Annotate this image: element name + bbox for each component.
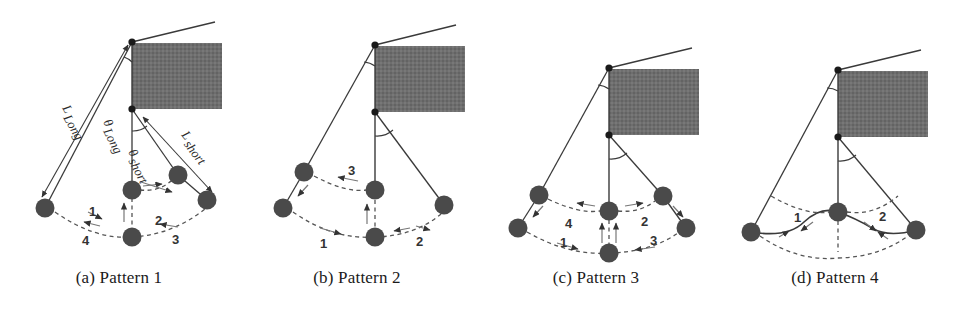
ball	[829, 203, 848, 222]
ball	[198, 191, 217, 210]
angle-arc-short	[609, 153, 627, 159]
step-number: 3	[650, 233, 657, 248]
trajectory-arc-outer-left	[293, 212, 375, 237]
support-block	[132, 43, 222, 109]
diagram-pattern-3: 4 2 1 3	[477, 0, 715, 268]
trajectory-arc-outer-right	[375, 214, 441, 237]
motion-arrow-4	[84, 222, 100, 226]
label-theta-short: θ short	[122, 146, 155, 186]
support-block	[838, 71, 928, 137]
step-number: 2	[879, 209, 886, 224]
panel-pattern-3: 4 2 1 3 (c) Pattern 3	[477, 0, 715, 320]
panel-caption: (c) Pattern 3	[477, 268, 715, 288]
support-block	[609, 69, 699, 135]
ball	[435, 196, 454, 215]
ball	[530, 186, 549, 205]
trajectory-outer-left	[527, 232, 609, 253]
panel-pattern-2: 3 1 2 (b) Pattern 2	[238, 0, 476, 320]
ceiling-line	[375, 25, 456, 45]
ball	[742, 223, 761, 242]
step-number: 1	[89, 204, 96, 219]
motion-arrow-2b	[394, 228, 410, 231]
panel-caption: (a) Pattern 1	[0, 268, 238, 288]
step-number: 2	[416, 234, 423, 249]
ceiling-line	[132, 22, 215, 42]
trajectory-outer-left	[760, 236, 838, 259]
pivot-upper	[834, 66, 841, 73]
step-number: 1	[794, 210, 801, 225]
step-number: 4	[82, 233, 90, 248]
figure-container: L Long θ Long θ short L short 1 2 3 4 (a…	[0, 0, 955, 320]
label-theta-long: θ Long	[97, 117, 130, 157]
motion-arrow-2	[864, 222, 876, 231]
label-l-long: L Long	[55, 101, 90, 143]
ball	[366, 228, 385, 247]
pivot-lower	[371, 108, 378, 115]
panel-caption: (b) Pattern 2	[238, 268, 476, 288]
rod-long-left	[539, 68, 609, 195]
angle-arc-long	[598, 85, 609, 89]
support-block	[375, 46, 465, 112]
diagram-pattern-4: 1 2	[716, 0, 955, 268]
ball	[36, 199, 55, 218]
ball	[274, 199, 293, 218]
pivot-upper	[605, 64, 612, 71]
ceiling-line	[609, 48, 692, 68]
motion-arrow-2	[625, 203, 643, 206]
angle-arc-long	[124, 57, 132, 62]
pivot-upper	[128, 38, 135, 45]
svg-text:Long: Long	[60, 111, 87, 143]
ball	[295, 163, 314, 182]
step-number: 3	[348, 163, 355, 178]
motion-arrow-3	[160, 224, 178, 227]
step-number: 2	[641, 214, 648, 229]
ball	[123, 228, 142, 247]
step-number: 1	[560, 235, 567, 250]
motion-arrow-down-left	[298, 185, 308, 196]
ball	[169, 166, 188, 185]
rod-right	[609, 135, 663, 196]
trajectory-outer-right	[838, 236, 908, 258]
trajectory-arc-inner	[314, 176, 366, 190]
motion-arrow-1	[320, 228, 341, 234]
ball	[907, 221, 926, 240]
pivot-lower	[605, 131, 612, 138]
motion-arrow-2	[416, 226, 430, 230]
motion-arrow-4	[577, 203, 595, 206]
step-number: 3	[172, 232, 179, 247]
trajectory-arc-outer-right	[132, 209, 205, 237]
pivot-upper	[371, 41, 378, 48]
panel-pattern-1: L Long θ Long θ short L short 1 2 3 4 (a…	[0, 0, 238, 320]
trajectory-inner-right	[618, 201, 655, 211]
ball	[600, 202, 619, 221]
angle-arc-long	[827, 88, 838, 91]
rod-long-left	[45, 42, 132, 208]
ball	[509, 219, 528, 238]
panel-caption: (d) Pattern 4	[716, 268, 954, 288]
motion-arrow-diag	[141, 182, 172, 192]
panel-pattern-4: 1 2 (d) Pattern 4	[716, 0, 954, 320]
pivot-lower	[128, 105, 135, 112]
ceiling-line	[838, 50, 921, 70]
diagram-pattern-1: L Long θ Long θ short L short 1 2 3 4	[0, 0, 238, 268]
step-number: 4	[565, 216, 573, 231]
label-l-short: L short	[175, 127, 213, 168]
step-number: 2	[155, 213, 162, 228]
ball	[677, 219, 696, 238]
angle-arc-long	[364, 62, 375, 66]
pivot-lower	[834, 133, 841, 140]
svg-text:Long: Long	[100, 125, 126, 157]
diagram-pattern-2: 3 1 2	[238, 0, 476, 268]
step-number: 1	[320, 236, 327, 251]
motion-arrow-down-left	[533, 206, 543, 217]
rod-long-left	[304, 45, 375, 172]
ball	[366, 181, 385, 200]
trajectory-outer-right	[609, 233, 678, 253]
ball	[654, 187, 673, 206]
ball	[600, 244, 619, 263]
rod-right	[375, 112, 444, 205]
